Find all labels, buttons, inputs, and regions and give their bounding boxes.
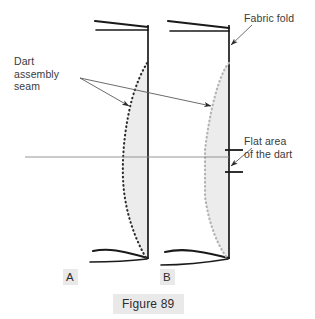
panel-a-bottom-edge-lower — [90, 259, 147, 262]
panel-b-bottom-edge-upper — [165, 250, 229, 258]
label-fabric-fold: Fabric fold — [244, 12, 294, 25]
panel-b-group — [161, 21, 243, 265]
label-dart-assembly-seam-line3: seam — [14, 80, 40, 92]
panel-b-bottom-edge-lower — [161, 259, 228, 265]
label-flat-area-line1: Flat area — [244, 135, 286, 147]
label-dart-assembly-seam-line2: assembly — [14, 68, 59, 80]
label-flat-area-of-dart: Flat area of the dart — [244, 135, 292, 160]
panel-b-dart-fill — [205, 63, 229, 258]
label-dart-assembly-seam-line1: Dart — [14, 55, 34, 67]
label-dart-assembly-seam: Dart assembly seam — [14, 55, 59, 93]
panel-a-top-fold-edge-upper — [95, 21, 148, 27]
figure-89-illustration: Dart assembly seam Fabric fold Flat area… — [0, 0, 315, 319]
label-fabric-fold-line1: Fabric fold — [244, 12, 294, 24]
panel-label-b: B — [160, 269, 175, 285]
label-flat-area-line2: of the dart — [244, 148, 292, 160]
leader-dart-seam-to-a — [80, 78, 129, 106]
panel-label-a: A — [63, 269, 78, 285]
panel-a-bottom-edge-upper — [93, 250, 148, 258]
panel-b-top-fold-edge-upper — [168, 21, 229, 28]
leader-fabric-fold — [231, 25, 252, 45]
panel-a-group — [90, 21, 148, 262]
figure-caption: Figure 89 — [113, 294, 184, 314]
panel-a-dart-fill — [123, 63, 148, 258]
